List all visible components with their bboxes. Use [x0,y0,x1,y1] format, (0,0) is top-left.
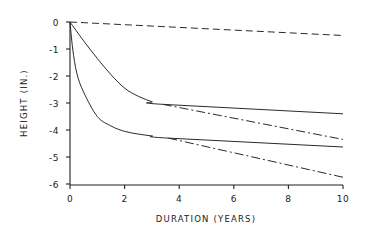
x-tick-label: 10 [337,194,349,204]
y-tick-label: 0 [53,18,59,28]
series-lower-dashdot [168,138,343,177]
axes: 0-1-2-3-4-5-6 0246810 [49,18,349,205]
y-tick-label: -5 [49,153,59,163]
x-tick-label: 6 [231,194,237,204]
series-upper-solid [70,22,343,114]
x-tick-label: 2 [121,194,127,204]
x-tick-label: 8 [285,194,291,204]
y-axis-title: HEIGHT (IN.) [19,69,29,137]
y-tick-label: -2 [49,72,59,82]
y-tick-label: -4 [49,126,59,136]
x-tick-label: 0 [67,194,73,204]
x-tick-label: 4 [176,194,182,204]
plot-lines [70,22,343,177]
series-lower-solid [70,22,343,147]
y-tick-label: -6 [49,180,59,190]
series-dashed-top [70,22,343,36]
x-ticks: 0246810 [67,185,349,204]
chart: 0-1-2-3-4-5-6 0246810 DURATION (YEARS) H… [0,0,369,241]
y-tick-label: -1 [49,45,59,55]
y-tick-label: -3 [49,99,59,109]
y-ticks: 0-1-2-3-4-5-6 [49,18,70,190]
x-axis-title: DURATION (YEARS) [156,214,256,224]
series-upper-dashdot [163,104,343,139]
